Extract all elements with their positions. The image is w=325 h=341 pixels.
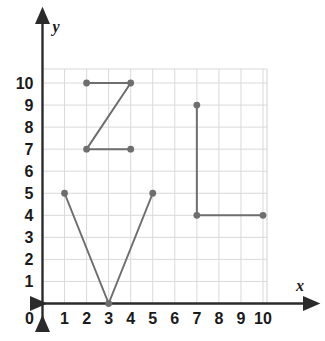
y-tick-label: 7 — [25, 141, 34, 158]
x-tick-label: 7 — [192, 310, 201, 327]
data-point — [83, 80, 90, 87]
x-tick-label: 5 — [148, 310, 157, 327]
y-tick-label: 4 — [25, 207, 34, 224]
y-tick-label: 1 — [25, 273, 34, 290]
y-tick-label: 2 — [25, 251, 34, 268]
data-point — [105, 300, 112, 307]
x-tick-label: 6 — [170, 310, 179, 327]
y-tick-label: 3 — [25, 229, 34, 246]
x-axis-label: x — [295, 277, 304, 294]
y-axis-label: y — [50, 18, 60, 36]
y-tick-label: 5 — [25, 185, 34, 202]
data-point — [83, 146, 90, 153]
y-tick-label: 6 — [25, 163, 34, 180]
data-point — [149, 190, 156, 197]
y-tick-label: 9 — [25, 97, 34, 114]
data-point — [127, 80, 134, 87]
data-point — [260, 212, 267, 219]
data-point — [127, 146, 134, 153]
x-tick-label: 1 — [60, 310, 69, 327]
data-point — [61, 190, 68, 197]
coordinate-plane-figure: 012345678910 12345678910 x y — [0, 0, 325, 341]
x-tick-label: 10 — [254, 310, 272, 327]
origin-label: 0 — [25, 310, 34, 327]
plot-background — [0, 0, 325, 341]
x-tick-label: 4 — [126, 310, 135, 327]
x-tick-label: 3 — [104, 310, 113, 327]
x-tick-label: 8 — [214, 310, 223, 327]
data-point — [193, 102, 200, 109]
coordinate-plot-svg: 012345678910 12345678910 x y — [0, 0, 325, 341]
data-point — [193, 212, 200, 219]
y-tick-label: 10 — [16, 75, 34, 92]
x-tick-label: 2 — [82, 310, 91, 327]
x-tick-label: 9 — [236, 310, 245, 327]
y-tick-label: 8 — [25, 119, 34, 136]
